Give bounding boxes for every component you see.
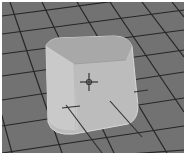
rounded-cube[interactable] [46,36,138,134]
3d-viewport[interactable]: 3D viewport [2,2,184,153]
scene [2,2,184,153]
